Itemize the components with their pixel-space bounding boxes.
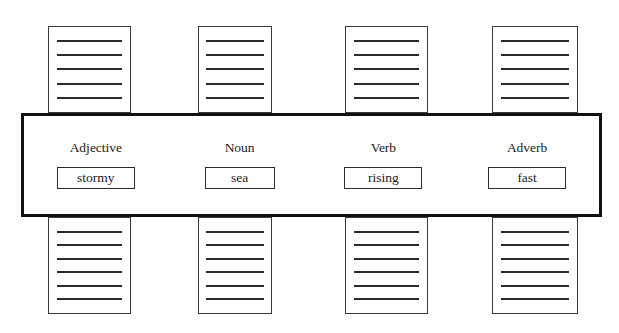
document-text-line [354,97,419,99]
selection-band-inner: Adjective stormy Noun sea Verb rising Ad… [24,116,599,214]
document-text-line [206,231,264,233]
document-text-line [206,40,264,42]
field-box-adjective[interactable]: stormy [57,167,135,189]
document-card-top-adjective[interactable] [48,26,131,113]
document-text-line [501,54,568,56]
field-label-noun: Noun [225,141,255,155]
field-label-adjective: Adjective [70,141,122,155]
document-text-line [57,68,122,70]
document-text-line [501,298,568,300]
field-box-adverb[interactable]: fast [488,167,566,189]
document-card-bottom-adverb[interactable] [492,217,578,314]
document-text-line [206,54,264,56]
document-text-line [206,68,264,70]
document-text-line [57,54,122,56]
document-text-line [501,244,568,246]
document-text-line [57,258,122,260]
document-text-line [206,298,264,300]
document-card-top-adverb[interactable] [492,26,578,113]
document-text-line [206,258,264,260]
document-text-line [354,258,419,260]
document-text-line [354,231,419,233]
document-text-line [57,40,122,42]
document-text-line [57,285,122,287]
document-text-line [57,271,122,273]
document-text-line [354,271,419,273]
document-text-line [354,83,419,85]
field-group-adjective: Adjective stormy [24,116,168,214]
document-text-line [354,40,419,42]
document-text-line [501,40,568,42]
field-box-noun[interactable]: sea [205,167,275,189]
field-label-verb: Verb [371,141,397,155]
document-card-bottom-adjective[interactable] [48,217,131,314]
document-card-bottom-noun[interactable] [198,217,272,314]
document-text-line [57,244,122,246]
document-text-line [57,83,122,85]
document-text-line [501,97,568,99]
selection-band: Adjective stormy Noun sea Verb rising Ad… [21,113,602,217]
document-text-line [501,271,568,273]
document-card-bottom-verb[interactable] [345,217,428,314]
document-text-line [206,271,264,273]
document-text-line [354,54,419,56]
document-text-line [57,97,122,99]
document-text-line [206,83,264,85]
document-text-line [501,83,568,85]
document-text-line [354,285,419,287]
document-text-line [501,231,568,233]
field-group-verb: Verb rising [312,116,456,214]
field-label-adverb: Adverb [507,141,548,155]
document-text-line [354,298,419,300]
document-card-top-verb[interactable] [345,26,428,113]
document-text-line [206,97,264,99]
document-text-line [206,244,264,246]
document-text-line [57,231,122,233]
document-text-line [206,285,264,287]
document-text-line [354,244,419,246]
field-group-noun: Noun sea [168,116,312,214]
document-text-line [57,298,122,300]
field-box-verb[interactable]: rising [344,167,422,189]
document-text-line [501,285,568,287]
document-text-line [354,68,419,70]
document-text-line [501,258,568,260]
field-group-adverb: Adverb fast [455,116,599,214]
document-card-top-noun[interactable] [198,26,272,113]
document-text-line [501,68,568,70]
